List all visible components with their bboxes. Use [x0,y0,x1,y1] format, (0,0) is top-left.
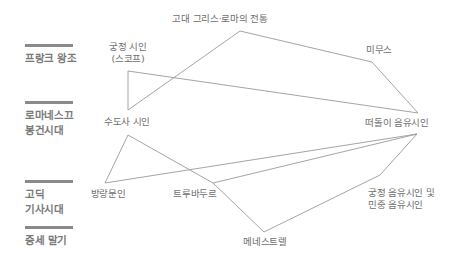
edge-troubadour-to-menestrel [213,183,264,232]
node-label: 떠돌이 음유시인 [365,117,429,129]
minstrel-lineage-diagram: 프랑크 왕조로마네스끄봉건시대고딕기사시대중세 말기 고대 그리스·로마의 전통… [0,0,451,267]
node-label: 메네스트렐 [243,236,287,248]
node-greco-roman: 고대 그리스·로마의 전통 [172,13,267,25]
edge-menestrel-to-court-folk-minstrel [264,175,380,232]
period-divider [25,226,73,229]
edge-troubadour-to-wandering-minstrel [213,134,417,183]
period-romanesque: 로마네스끄봉건시대 [25,101,73,138]
period-label: 로마네스끄 [25,108,73,123]
edge-monk-poet-to-troubadour [128,135,213,183]
period-divider [25,44,73,47]
edge-mime-to-wandering-minstrel [372,62,418,113]
period-label: 봉건시대 [25,123,73,138]
period-label: 기사시대 [25,202,73,217]
edge-court-poet-to-wandering-minstrel [128,71,418,113]
edge-vagrant-scholar-to-wandering-minstrel [105,134,417,183]
node-mime: 미무스 [366,44,392,56]
period-divider [25,101,73,104]
period-gothic: 고딕기사시대 [25,180,73,217]
edge-monk-poet-to-vagrant-scholar [105,135,128,183]
node-label: 궁정 시인 [109,41,147,53]
node-court-folk-minstrel: 궁정 음유시인 및민중 음유시인 [368,187,434,211]
node-troubadour: 트루바두르 [173,188,217,200]
period-label: 프랑크 왕조 [25,51,73,66]
edge-greco-roman-to-mime [240,31,372,62]
node-label: 방랑문인 [91,188,126,200]
period-label: 중세 말기 [25,233,73,248]
node-label: 트루바두르 [173,188,217,200]
period-frankish: 프랑크 왕조 [25,44,73,66]
node-label: 고대 그리스·로마의 전통 [172,13,267,25]
period-divider [25,180,73,183]
period-label: 고딕 [25,187,73,202]
node-label: (스코프) [109,53,147,65]
node-menestrel: 메네스트렐 [243,236,287,248]
node-monk-poet: 수도사 시인 [104,116,150,128]
node-vagrant-scholar: 방랑문인 [91,188,126,200]
node-court-poet: 궁정 시인(스코프) [109,41,147,65]
node-label: 민중 음유시인 [368,199,434,211]
edge-court-folk-minstrel-to-wandering-minstrel [380,134,417,175]
node-label: 미무스 [366,44,392,56]
period-late-medieval: 중세 말기 [25,226,73,248]
node-label: 수도사 시인 [104,116,150,128]
node-label: 궁정 음유시인 및 [368,187,434,199]
node-wandering-minstrel: 떠돌이 음유시인 [365,117,429,129]
